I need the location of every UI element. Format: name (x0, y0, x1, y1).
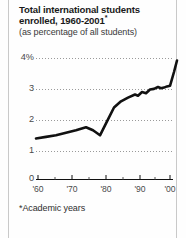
x-tick-label-80: '80 (94, 185, 118, 194)
x-tick-label-70: '70 (60, 185, 84, 194)
x-tick-label-00: '00 (158, 185, 182, 194)
data-line-international-students (36, 61, 177, 139)
x-tick-label-60: '60 (26, 185, 50, 194)
chart-footnote: *Academic years (19, 203, 85, 213)
x-axis-major-ticks (38, 175, 170, 180)
x-tick-label-90: '90 (128, 185, 152, 194)
chart-card: Total international students enrolled, 1… (0, 0, 186, 238)
